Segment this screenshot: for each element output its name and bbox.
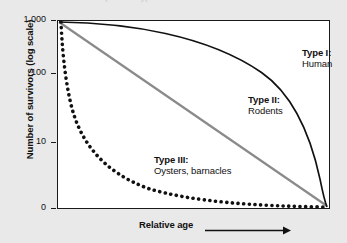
- type1-label-subtitle: Human: [302, 58, 332, 70]
- type2-label: Type II: Rodents: [248, 94, 283, 117]
- y-tick-mark-100: [51, 73, 56, 74]
- y-tick-label-10: 10: [0, 136, 46, 146]
- type2-label-subtitle: Rodents: [248, 105, 283, 117]
- y-axis-title: Number of survivors (log scale): [24, 0, 35, 185]
- type3-label-subtitle: Oysters, barnacles: [154, 165, 231, 177]
- curves-svg: [58, 21, 329, 208]
- type3-label: Type III: Oysters, barnacles: [154, 154, 231, 177]
- type1-label: Type I: Human: [302, 47, 332, 70]
- plot-area: Type I: Human Type II: Rodents Type III:…: [57, 20, 330, 209]
- y-tick-mark-10: [51, 142, 56, 143]
- x-axis-title: Relative age: [139, 219, 193, 230]
- y-tick-label-100: 100: [0, 67, 46, 77]
- y-tick-label-1000: 1,000: [0, 14, 46, 24]
- type1-label-title: Type I:: [302, 47, 332, 58]
- x-axis-arrow-icon: [205, 226, 291, 235]
- type2-curve-path: [59, 22, 327, 206]
- survivorship-curve-figure: survivorship curve types Number of survi…: [0, 0, 347, 243]
- y-tick-mark-0: [51, 208, 56, 209]
- y-tick-mark-1000: [51, 20, 56, 21]
- y-tick-label-0: 0: [0, 202, 46, 212]
- top-cutoff-text: survivorship curve types: [60, 0, 160, 2]
- type2-label-title: Type II:: [248, 94, 283, 105]
- type3-label-title: Type III:: [154, 154, 231, 165]
- top-cutoff-text-remnant: survivorship curve types: [0, 0, 347, 9]
